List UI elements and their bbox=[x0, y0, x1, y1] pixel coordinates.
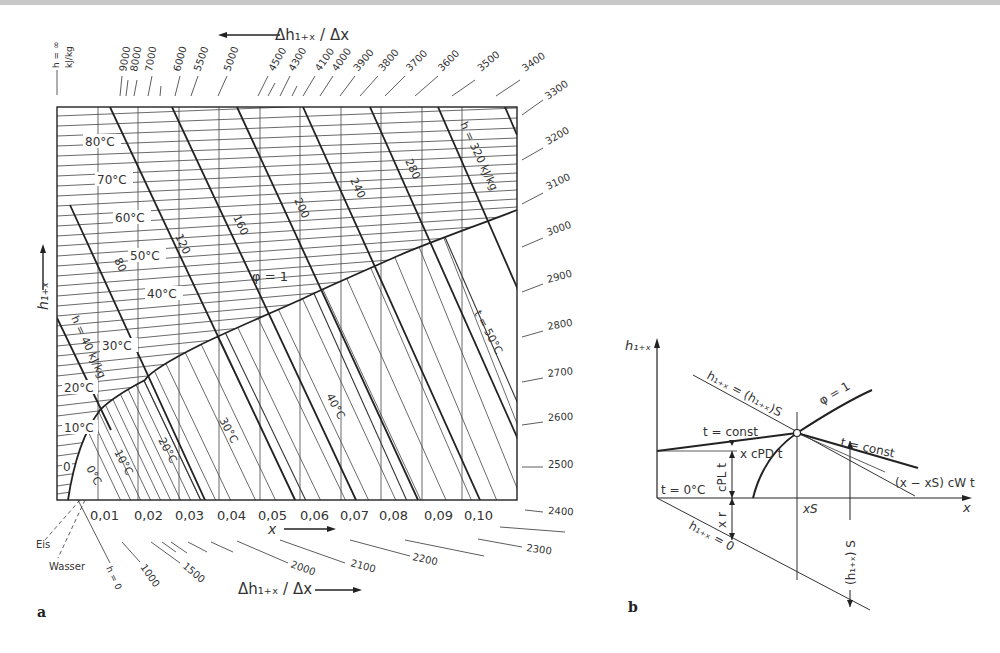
isotherm-label-50: 50°C bbox=[130, 249, 160, 263]
h-unit-label: kJ/kg bbox=[64, 46, 74, 68]
right-tick: 2600 bbox=[548, 411, 574, 423]
b-arrowheads bbox=[729, 440, 853, 607]
b-hs-label: h₁₊ₓ = (h₁₊ₓ)S bbox=[705, 368, 785, 419]
bottom-tick: 1000 bbox=[138, 562, 162, 589]
y-arrow-head-icon bbox=[40, 244, 46, 253]
x-tick: 0,06 bbox=[300, 508, 329, 523]
top-tick: 5000 bbox=[222, 45, 241, 73]
figure: 80°C 70°C 60°C 50°C 40°C 30°C 20°C 10°C … bbox=[0, 0, 1000, 653]
fog-isotherm-labels: 0°C 10°C 20°C 30°C 40°C t = 50°C bbox=[83, 308, 505, 487]
saturation-label: φ = 1 bbox=[252, 269, 288, 284]
h-infinity-label: h = ∞ bbox=[51, 42, 61, 68]
right-tick: 2800 bbox=[546, 317, 573, 332]
b-hs-dimension-label: (h₁₊ₓ) S bbox=[844, 540, 858, 585]
isotherm-label-30: 30°C bbox=[102, 339, 132, 353]
ice-water-lines bbox=[45, 500, 85, 558]
b-water-term: (x − xS) cW t bbox=[895, 476, 975, 490]
b-air-term: cPL t bbox=[715, 463, 729, 492]
b-tzero-label: t = 0°C bbox=[661, 483, 705, 497]
fog-label-40: 40°C bbox=[323, 391, 347, 421]
top-edge-scale: Δh₁₊ₓ / Δx h = ∞ kJ/kg 9000 8000 7000 bbox=[51, 26, 547, 96]
bottom-scale-title: Δh₁₊ₓ / Δx bbox=[238, 580, 312, 598]
x-tick: 0,03 bbox=[175, 508, 204, 523]
isotherm-label-80: 80°C bbox=[85, 135, 115, 149]
panel-a-letter: a bbox=[37, 604, 46, 620]
b-xr-term: x r bbox=[715, 512, 729, 528]
top-tick: 3800 bbox=[376, 47, 401, 74]
isotherm-label-60: 60°C bbox=[115, 211, 145, 225]
isotherm-label-10: 10°C bbox=[64, 421, 94, 435]
fog-label-10: 10°C bbox=[111, 447, 135, 477]
x-tick: 0,02 bbox=[134, 508, 163, 523]
b-y-arrow-icon bbox=[654, 338, 660, 348]
right-tick: 3000 bbox=[545, 219, 573, 238]
panel-b-construction: h₁₊ₓ x h₁₊ₓ = 0 h₁₊ₓ = (h₁₊ₓ)S xS t = co… bbox=[625, 338, 975, 615]
b-x-label: x bbox=[962, 500, 971, 515]
b-h0-line bbox=[657, 498, 870, 610]
right-tick: 2500 bbox=[548, 459, 573, 470]
isotherm-label-0: 0 bbox=[63, 460, 71, 474]
x-tick: 0,09 bbox=[424, 508, 453, 523]
b-state-point bbox=[794, 430, 801, 437]
fog-label-20: 20°C bbox=[155, 435, 179, 465]
h0-label: h = 0 bbox=[104, 565, 124, 592]
x-tick: 0,04 bbox=[217, 508, 246, 523]
enthalpy-label-240: 240 bbox=[347, 176, 368, 201]
isotherm-label-40: 40°C bbox=[147, 287, 177, 301]
right-tick: 3200 bbox=[544, 124, 572, 146]
top-scale-title: Δh₁₊ₓ / Δx bbox=[275, 26, 349, 44]
fog-label-0: 0°C bbox=[83, 463, 104, 487]
chart-frame bbox=[57, 107, 517, 500]
b-xs-label: xS bbox=[802, 502, 818, 516]
fog-label-50: t = 50°C bbox=[471, 308, 505, 357]
bottom-tick: 2000 bbox=[289, 559, 317, 578]
right-tick: 2700 bbox=[547, 365, 573, 379]
isotherm-label-70: 70°C bbox=[97, 173, 127, 187]
top-tick: 7000 bbox=[143, 45, 158, 72]
top-tick: 4500 bbox=[266, 45, 288, 73]
b-tconst-left-label: t = const bbox=[703, 425, 758, 439]
b-y-label: h₁₊ₓ bbox=[625, 338, 651, 353]
top-tick: 3700 bbox=[404, 48, 430, 74]
right-tick: 2400 bbox=[548, 505, 574, 517]
top-tick: 3500 bbox=[475, 49, 502, 74]
x-tick: 0,01 bbox=[90, 508, 119, 523]
top-scale-arrow-icon bbox=[218, 32, 227, 38]
top-tick: 4300 bbox=[286, 45, 308, 73]
top-strip bbox=[0, 0, 1000, 5]
x-axis-ticks: 0,01 0,02 0,03 0,04 0,05 0,06 0,07 0,08 … bbox=[90, 508, 493, 523]
bottom-tick: 1500 bbox=[181, 560, 208, 585]
water-label: Wasser bbox=[49, 561, 86, 572]
x-tick: 0,10 bbox=[464, 508, 493, 523]
right-tick: 2900 bbox=[546, 268, 573, 285]
x-arrow-head-icon bbox=[327, 526, 336, 532]
bottom-tick: 2300 bbox=[526, 542, 553, 556]
bottom-tick: 2100 bbox=[349, 557, 376, 574]
x-tick: 0,07 bbox=[340, 508, 369, 523]
enthalpy-label-80: 80 bbox=[111, 256, 129, 274]
top-tick: 3400 bbox=[520, 50, 547, 74]
bottom-edge-scale: 1000 1500 2000 2100 2200 2300 Δh₁₊ₓ / Δx bbox=[122, 539, 552, 598]
isenthalp-lines bbox=[57, 107, 610, 500]
panel-b-letter: b bbox=[628, 599, 638, 615]
isotherms-unsaturated bbox=[57, 98, 517, 494]
enthalpy-label-200: 200 bbox=[291, 196, 312, 221]
isotherm-label-20: 20°C bbox=[64, 381, 94, 395]
right-tick: 3100 bbox=[544, 171, 572, 192]
bottom-scale-arrow-icon bbox=[353, 587, 362, 593]
bottom-tick: 2200 bbox=[412, 551, 439, 567]
x-tick: 0,08 bbox=[379, 508, 408, 523]
top-tick: 5500 bbox=[192, 45, 211, 73]
right-tick: 3300 bbox=[543, 78, 570, 102]
panel-a-hx-diagram: 80°C 70°C 60°C 50°C 40°C 30°C 20°C 10°C … bbox=[35, 26, 610, 620]
b-dimension-arrows bbox=[732, 441, 850, 607]
top-tick: 3900 bbox=[351, 47, 376, 74]
top-tick: 4000 bbox=[330, 46, 354, 73]
x-axis-label: x bbox=[267, 521, 277, 537]
top-tick: 6000 bbox=[171, 45, 188, 72]
top-tick: 3600 bbox=[436, 48, 462, 74]
ice-label: Eis bbox=[36, 539, 50, 550]
b-vapor-term: x cPD t bbox=[740, 447, 783, 461]
